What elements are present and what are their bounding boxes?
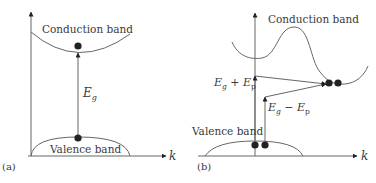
panel-b: k Conduction band Eg + Ep Eg − Ep Valenc… — [191, 13, 368, 172]
electron-dot-vb-a — [74, 134, 81, 141]
lower-energy-label: Eg − Ep — [267, 101, 310, 116]
panel-tag-a: (a) — [2, 161, 16, 172]
k-axis-label-b: k — [361, 149, 368, 163]
conduction-band-label-b: Conduction band — [268, 13, 359, 25]
conduction-band-curve-a — [31, 32, 130, 53]
electron-dot-vb-b1 — [251, 141, 258, 148]
electron-dot-cb-a — [74, 42, 81, 49]
upper-energy-label: Eg + Ep — [213, 76, 256, 91]
gap-label-a: Eg — [82, 86, 97, 102]
band-diagram: k Conduction band Valence band Eg (a) k … — [0, 0, 376, 183]
conduction-band-curve-b — [232, 27, 368, 84]
k-axis-label-a: k — [169, 149, 176, 163]
conduction-band-label-a: Conduction band — [42, 23, 133, 35]
electron-dot-cb-b2 — [334, 79, 341, 86]
panel-tag-b: (b) — [197, 161, 211, 172]
electron-dot-cb-b1 — [325, 79, 332, 86]
valence-band-label-a: Valence band — [49, 143, 121, 155]
panel-a: k Conduction band Valence band Eg (a) — [2, 12, 176, 172]
valence-band-label-b: Valence band — [191, 125, 263, 137]
phonon-emission-arrow-horizontal — [265, 84, 326, 97]
phonon-absorption-arrow — [255, 76, 326, 84]
electron-dot-vb-b2 — [261, 141, 268, 148]
